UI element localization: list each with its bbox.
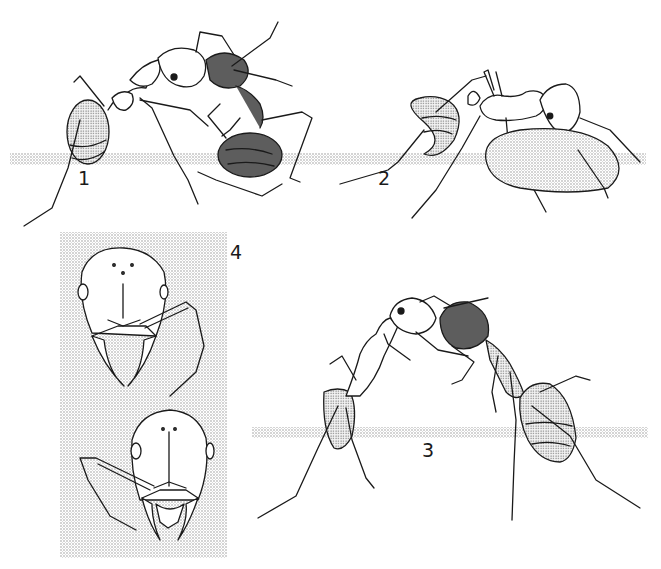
plate-drawing	[0, 0, 661, 569]
panel-2-ant	[340, 70, 640, 218]
panel-4-label: 4	[230, 243, 242, 262]
ground-band-bottom	[252, 427, 648, 438]
panel-3-ants	[258, 296, 640, 520]
illustration-plate: 1 2 3 4	[0, 0, 661, 569]
panel-1-label: 1	[78, 169, 90, 188]
panel-2-label: 2	[378, 169, 390, 188]
panel-3-label: 3	[422, 441, 434, 460]
panel-1-ants	[24, 22, 312, 226]
